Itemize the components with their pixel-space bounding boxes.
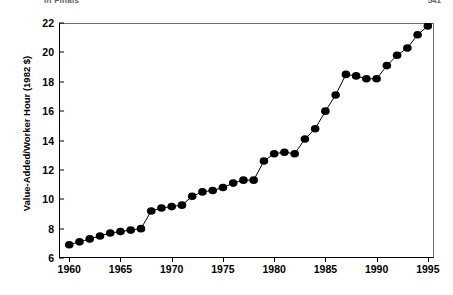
data-point — [147, 207, 156, 215]
x-axis-tick-label: 1985 — [314, 263, 337, 275]
y-axis-title: Value-Added/Worker Hour (1982 $) — [21, 24, 32, 244]
x-axis-tick-mark — [377, 258, 378, 262]
y-axis-tick-label: 16 — [42, 105, 54, 117]
page-header: in Finals 541 — [0, 0, 453, 11]
x-axis-tick-mark — [428, 258, 429, 262]
y-axis-tick-label: 18 — [42, 76, 54, 88]
y-axis-tick-label: 10 — [42, 193, 54, 205]
chart-page: in Finals 541 Value-Added/Worker Hour (1… — [0, 0, 453, 295]
y-axis-tick-mark — [59, 140, 64, 141]
data-point — [188, 193, 197, 201]
data-point — [96, 232, 105, 240]
data-point — [198, 188, 207, 196]
data-point — [106, 229, 115, 237]
plot-area: 6810121416182022196019651970197519801985… — [59, 23, 434, 258]
y-axis-tick-label: 6 — [48, 252, 54, 264]
header-page-number: 541 — [428, 0, 441, 5]
header-left-text: in Finals — [44, 0, 79, 5]
data-point — [362, 75, 371, 83]
data-point — [383, 62, 392, 70]
data-point — [393, 52, 402, 60]
y-axis-tick-mark — [59, 228, 64, 229]
data-point — [167, 203, 176, 211]
x-axis-tick-label: 1990 — [365, 263, 388, 275]
x-axis-tick-mark — [172, 258, 173, 262]
data-point — [85, 235, 94, 243]
y-axis-tick-label: 22 — [42, 17, 54, 29]
data-point — [372, 75, 381, 83]
x-axis-tick-label: 1970 — [160, 263, 183, 275]
x-axis-tick-mark — [120, 258, 121, 262]
data-point — [352, 72, 361, 80]
data-point — [116, 228, 125, 236]
x-axis-tick-mark — [325, 258, 326, 262]
x-axis-tick-label: 1980 — [262, 263, 285, 275]
y-axis-tick-label: 8 — [48, 223, 54, 235]
y-axis-tick-mark — [59, 52, 64, 53]
data-point — [65, 241, 74, 249]
x-axis-tick-label: 1960 — [58, 263, 81, 275]
y-axis-tick-mark — [59, 169, 64, 170]
x-axis-tick-label: 1965 — [109, 263, 132, 275]
data-point — [239, 176, 248, 184]
data-point — [126, 226, 135, 234]
data-point — [321, 107, 330, 115]
data-point — [403, 44, 412, 52]
data-point — [137, 225, 146, 233]
data-point — [290, 150, 299, 158]
y-axis-tick-label: 14 — [42, 135, 54, 147]
data-point — [219, 184, 228, 192]
y-axis-tick-mark — [59, 81, 64, 82]
x-axis-tick-mark — [223, 258, 224, 262]
y-axis-tick-mark — [59, 23, 64, 24]
data-series-line — [59, 23, 434, 258]
x-axis-tick-label: 1975 — [211, 263, 234, 275]
data-point — [270, 150, 279, 158]
data-point — [311, 125, 320, 133]
x-axis-tick-mark — [274, 258, 275, 262]
data-point — [229, 179, 238, 187]
data-point — [178, 201, 187, 209]
data-point — [413, 31, 422, 39]
series-polyline — [69, 26, 428, 245]
data-point — [249, 176, 258, 184]
data-point — [208, 187, 217, 195]
data-point — [280, 148, 289, 156]
data-point — [157, 204, 166, 212]
y-axis-tick-mark — [59, 258, 64, 259]
y-axis-tick-mark — [59, 111, 64, 112]
x-axis-tick-mark — [69, 258, 70, 262]
y-axis-tick-mark — [59, 199, 64, 200]
y-axis-tick-label: 12 — [42, 164, 54, 176]
data-point — [331, 91, 340, 99]
data-point — [301, 135, 310, 143]
x-axis-tick-label: 1995 — [416, 263, 439, 275]
data-point — [260, 157, 269, 165]
data-point — [75, 238, 84, 246]
y-axis-tick-label: 20 — [42, 46, 54, 58]
data-point — [342, 71, 351, 79]
